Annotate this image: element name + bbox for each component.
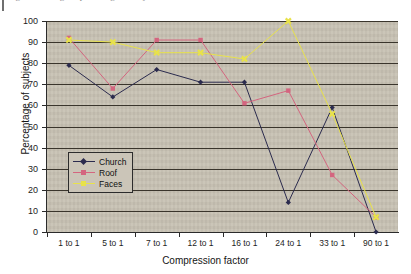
page-margin-rule bbox=[2, 0, 4, 11]
x-tick bbox=[266, 233, 267, 237]
x-tick bbox=[310, 233, 311, 237]
legend-label: Roof bbox=[99, 168, 117, 178]
data-point bbox=[111, 86, 115, 90]
x-tick-label: 90 to 1 bbox=[346, 238, 406, 248]
chart-figure: Figure showing the percentage of subject… bbox=[0, 0, 411, 274]
y-tick-label: 0 bbox=[8, 228, 38, 237]
x-tick bbox=[223, 233, 224, 237]
legend-label: Faces bbox=[99, 179, 122, 189]
legend: ChurchRoofFaces bbox=[68, 152, 133, 193]
data-point bbox=[286, 18, 291, 23]
x-tick bbox=[135, 233, 136, 237]
data-point bbox=[286, 200, 291, 205]
caption-text: Figure showing the percentage of subject… bbox=[8, 0, 160, 1]
y-tick-label: 10 bbox=[8, 207, 38, 216]
x-tick bbox=[354, 233, 355, 237]
legend-swatch-icon bbox=[73, 157, 95, 166]
data-point bbox=[330, 173, 334, 177]
y-tick-label: 20 bbox=[8, 186, 38, 195]
data-point bbox=[198, 80, 203, 85]
x-tick bbox=[179, 233, 180, 237]
data-series-layer bbox=[47, 21, 398, 232]
data-point bbox=[373, 229, 378, 234]
legend-swatch-icon bbox=[73, 168, 95, 177]
cropped-caption-line: Figure showing the percentage of subject… bbox=[0, 0, 411, 11]
data-point bbox=[286, 88, 290, 92]
x-tick bbox=[47, 233, 48, 237]
x-axis-title: Compression factor bbox=[0, 255, 411, 266]
data-point bbox=[242, 101, 246, 105]
y-axis-title: Percentage of subjects bbox=[20, 24, 31, 184]
data-point bbox=[198, 38, 202, 42]
data-point bbox=[154, 38, 158, 42]
data-point bbox=[242, 80, 247, 85]
legend-item-faces: Faces bbox=[73, 178, 126, 189]
data-point bbox=[154, 67, 159, 72]
legend-swatch-icon bbox=[73, 179, 95, 188]
legend-label: Church bbox=[99, 157, 126, 167]
legend-item-roof: Roof bbox=[73, 167, 126, 178]
legend-item-church: Church bbox=[73, 156, 126, 167]
x-tick bbox=[91, 233, 92, 237]
